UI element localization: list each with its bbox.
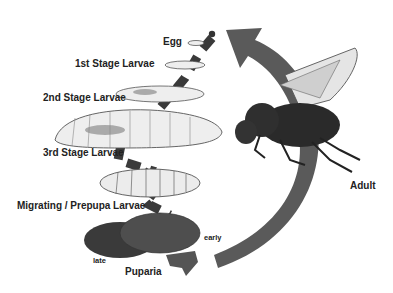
- prepupa-shape: [100, 169, 200, 197]
- adult-fly: [235, 48, 360, 172]
- larva3-shape: [55, 110, 222, 148]
- egg-dot: [209, 31, 215, 37]
- label-prepupa: Migrating / Prepupa Larvae: [17, 200, 145, 211]
- label-puparia-early: early: [204, 233, 222, 242]
- cycle-arrow-adult: [214, 28, 319, 268]
- egg-shape: [188, 41, 204, 46]
- puparia-arrow: [166, 251, 198, 276]
- larva2-shape: [116, 86, 204, 102]
- label-puparia: Puparia: [125, 266, 162, 277]
- larva1-shape: [165, 61, 205, 69]
- label-larva2: 2nd Stage Larvae: [43, 92, 126, 103]
- label-larva3: 3rd Stage Larvae: [43, 147, 124, 158]
- label-adult: Adult: [350, 180, 376, 191]
- puparia-early: [120, 213, 200, 253]
- label-puparia-late: late: [93, 256, 106, 265]
- label-egg: Egg: [163, 36, 182, 47]
- label-larva1: 1st Stage Larvae: [75, 58, 155, 69]
